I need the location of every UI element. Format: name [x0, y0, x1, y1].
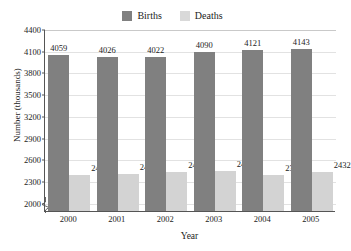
bar-deaths: 2443	[166, 30, 187, 211]
bar-rect	[215, 171, 236, 211]
bar-deaths: 2416	[118, 30, 139, 211]
x-axis-tick-label: 2002	[144, 214, 186, 224]
legend-label-births: Births	[137, 11, 161, 21]
bar-rect	[48, 55, 69, 211]
x-axis-tick-label: 2003	[193, 214, 235, 224]
x-axis-title: Year	[44, 231, 335, 241]
bar-rect	[166, 172, 187, 211]
bar-deaths: 2403	[69, 30, 90, 211]
x-axis-tick-label: 2004	[241, 214, 283, 224]
bar-group: 40262416	[97, 30, 139, 211]
chart-title: Number of Births and Deaths in the Unite…	[0, 0, 345, 2]
legend-item-deaths: Deaths	[180, 11, 223, 21]
bar-rect	[194, 52, 215, 211]
x-axis-tick-label: 2001	[96, 214, 138, 224]
y-axis-title: Number (thousands)	[12, 30, 22, 180]
bar-value-label: 4022	[147, 45, 164, 55]
bar-group: 40592403	[48, 30, 90, 211]
bar-births: 4059	[48, 30, 69, 211]
bar-value-label: 2432	[333, 160, 351, 170]
bar-group: 41212393	[242, 30, 284, 211]
bar-value-label: 4121	[244, 38, 261, 48]
bar-rect	[263, 175, 284, 211]
bar-value-label: 4143	[293, 37, 310, 47]
bar-value-label: 4026	[99, 45, 116, 55]
x-axis-tick-label: 2005	[290, 214, 332, 224]
bar-deaths: 2432	[312, 30, 333, 211]
plot-area: 440041003800350032002900260023002000 405…	[44, 30, 335, 211]
legend-swatch-births-icon	[122, 11, 132, 21]
bar-deaths: 2393	[263, 30, 284, 211]
bar-births: 4022	[145, 30, 166, 211]
bar-births: 4121	[242, 30, 263, 211]
bar-rect	[242, 50, 263, 211]
x-axis-labels: 200020012002200320042005	[44, 214, 335, 224]
bar-rect	[291, 49, 312, 211]
bar-deaths: 2448	[215, 30, 236, 211]
bar-value-label: 4059	[50, 43, 67, 53]
legend-swatch-deaths-icon	[180, 11, 190, 21]
bar-group: 40222443	[145, 30, 187, 211]
bar-rect	[312, 172, 333, 211]
bar-rect	[145, 57, 166, 211]
x-axis-tick-label: 2000	[47, 214, 89, 224]
bar-births: 4026	[97, 30, 118, 211]
bar-group: 41432432	[291, 30, 333, 211]
bar-births: 4090	[194, 30, 215, 211]
chart-legend: Births Deaths	[0, 11, 345, 21]
legend-label-deaths: Deaths	[195, 11, 223, 21]
legend-item-births: Births	[122, 11, 161, 21]
bar-group: 40902448	[194, 30, 236, 211]
x-axis-line	[44, 211, 335, 212]
bar-births: 4143	[291, 30, 312, 211]
bar-groups: 4059240340262416402224434090244841212393…	[45, 30, 336, 211]
bar-rect	[118, 174, 139, 211]
bar-rect	[69, 175, 90, 211]
bar-value-label: 4090	[196, 40, 213, 50]
bar-rect	[97, 57, 118, 211]
